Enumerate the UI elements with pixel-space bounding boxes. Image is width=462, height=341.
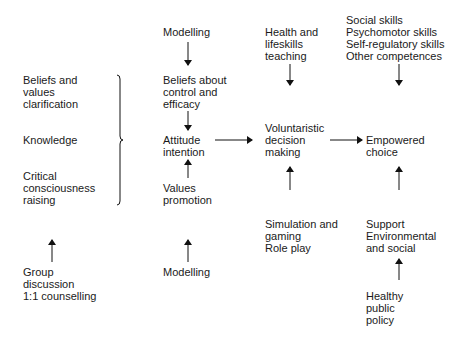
node-line: Support	[366, 218, 436, 230]
node-beliefs-values-clarification: Beliefs and values clarification	[23, 74, 78, 110]
node-line: clarification	[23, 98, 78, 110]
node-line: values	[23, 86, 78, 98]
node-modelling-bottom: Modelling	[163, 266, 210, 278]
node-line: decision	[265, 134, 324, 146]
node-line: promotion	[163, 194, 212, 206]
brace-icon	[117, 75, 123, 205]
node-line: raising	[23, 194, 95, 206]
node-line: policy	[366, 314, 403, 326]
node-line: 1:1 counselling	[23, 290, 96, 302]
node-line: control and	[163, 86, 227, 98]
node-line: consciousness	[23, 182, 95, 194]
node-line: Modelling	[163, 266, 210, 278]
node-line: making	[265, 146, 324, 158]
node-line: Self-regulatory skills	[346, 38, 444, 50]
node-line: choice	[366, 146, 425, 158]
node-line: Critical	[23, 170, 95, 182]
node-empowered-choice: Empowered choice	[366, 134, 425, 158]
node-line: intention	[163, 146, 205, 158]
node-line: efficacy	[163, 98, 227, 110]
node-line: Social skills	[346, 14, 444, 26]
node-line: Beliefs about	[163, 74, 227, 86]
node-line: gaming	[265, 230, 338, 242]
node-beliefs-control-efficacy: Beliefs about control and efficacy	[163, 74, 227, 110]
node-line: lifeskills	[265, 38, 318, 50]
node-line: Health and	[265, 26, 318, 38]
node-line: discussion	[23, 278, 96, 290]
node-group-discussion: Group discussion 1:1 counselling	[23, 266, 96, 302]
node-voluntaristic-decision: Voluntaristic decision making	[265, 122, 324, 158]
node-health-lifeskills-teaching: Health and lifeskills teaching	[265, 26, 318, 62]
node-line: Beliefs and	[23, 74, 78, 86]
node-line: Voluntaristic	[265, 122, 324, 134]
node-values-promotion: Values promotion	[163, 182, 212, 206]
node-line: Knowledge	[23, 134, 77, 146]
node-line: Values	[163, 182, 212, 194]
node-knowledge: Knowledge	[23, 134, 77, 146]
node-simulation-gaming: Simulation and gaming Role play	[265, 218, 338, 254]
node-line: Empowered	[366, 134, 425, 146]
node-line: Group	[23, 266, 96, 278]
node-attitude-intention: Attitude intention	[163, 134, 205, 158]
node-line: teaching	[265, 50, 318, 62]
node-line: Simulation and	[265, 218, 338, 230]
node-critical-consciousness: Critical consciousness raising	[23, 170, 95, 206]
node-line: Environmental	[366, 230, 436, 242]
node-line: Modelling	[163, 26, 210, 38]
node-line: Healthy	[366, 290, 403, 302]
node-line: public	[366, 302, 403, 314]
node-line: Psychomotor skills	[346, 26, 444, 38]
node-line: and social	[366, 242, 436, 254]
node-healthy-public-policy: Healthy public policy	[366, 290, 403, 326]
node-skills: Social skills Psychomotor skills Self-re…	[346, 14, 444, 62]
node-support-environmental-social: Support Environmental and social	[366, 218, 436, 254]
node-line: Attitude	[163, 134, 205, 146]
node-line: Role play	[265, 242, 338, 254]
node-modelling-top: Modelling	[163, 26, 210, 38]
node-line: Other competences	[346, 50, 444, 62]
